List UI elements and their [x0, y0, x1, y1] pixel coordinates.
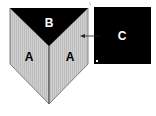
label-c: C: [118, 29, 127, 43]
diagram-canvas: B A A C: [0, 0, 156, 116]
label-a-right: A: [66, 50, 75, 64]
label-b: B: [45, 16, 54, 30]
box-c-dot: [96, 60, 98, 62]
label-a-left: A: [25, 50, 34, 64]
